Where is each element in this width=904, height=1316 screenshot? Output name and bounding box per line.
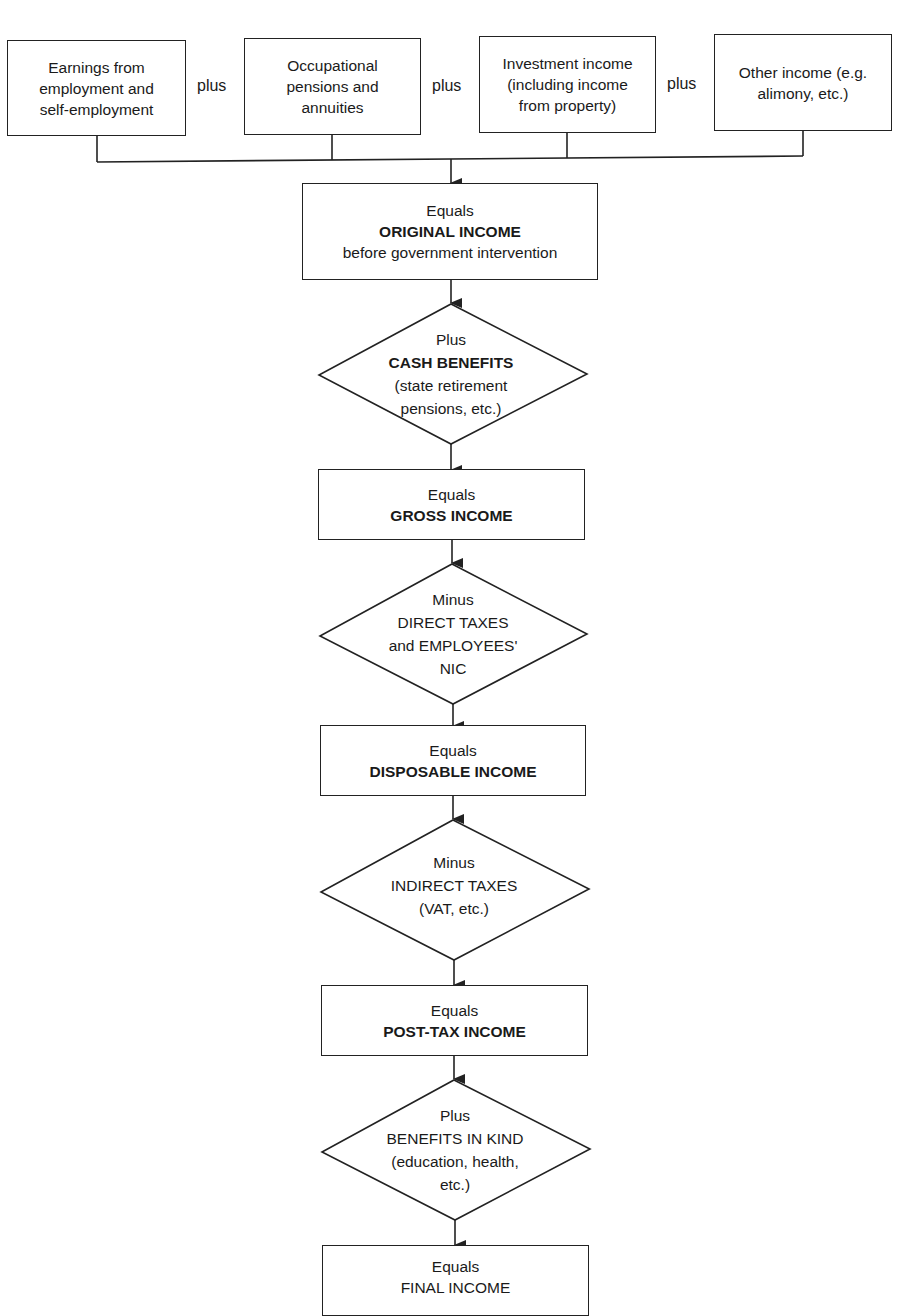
text-line: Equals bbox=[429, 740, 476, 761]
text-line: INDIRECT TAXES bbox=[391, 874, 518, 897]
text-line: DISPOSABLE INCOME bbox=[369, 761, 536, 782]
source-box-pensions: Occupational pensions and annuities bbox=[244, 38, 421, 135]
text-line: POST-TAX INCOME bbox=[383, 1021, 526, 1042]
text-line: etc.) bbox=[440, 1173, 470, 1196]
text-line: Equals bbox=[432, 1256, 479, 1277]
text-line: (VAT, etc.) bbox=[419, 897, 489, 920]
text-line: and EMPLOYEES' bbox=[389, 634, 518, 657]
text-line: employment and bbox=[39, 78, 154, 99]
text-line: Equals bbox=[431, 1000, 478, 1021]
text-line: pensions, etc.) bbox=[401, 397, 502, 420]
text-line: self-employment bbox=[40, 99, 154, 120]
text-line: Occupational bbox=[287, 55, 377, 76]
source-box-earnings: Earnings from employment and self-employ… bbox=[7, 40, 186, 136]
label-indirect-taxes: Minus INDIRECT TAXES (VAT, etc.) bbox=[354, 835, 554, 935]
text-line: Other income (e.g. bbox=[739, 62, 867, 83]
label-benefits-in-kind: Plus BENEFITS IN KIND (education, health… bbox=[355, 1090, 555, 1210]
text-line: CASH BENEFITS bbox=[389, 351, 514, 374]
plus-label-1: plus bbox=[197, 77, 226, 95]
text-line: DIRECT TAXES bbox=[397, 611, 508, 634]
source-box-other: Other income (e.g. alimony, etc.) bbox=[714, 34, 892, 131]
text-line: Equals bbox=[428, 484, 475, 505]
text-line: annuities bbox=[301, 97, 363, 118]
text-line: Earnings from bbox=[48, 57, 144, 78]
text-line: Minus bbox=[432, 588, 473, 611]
text-line: ORIGINAL INCOME bbox=[379, 221, 521, 242]
text-line: Minus bbox=[433, 851, 474, 874]
plus-label-2: plus bbox=[432, 77, 461, 95]
text-line: (state retirement bbox=[395, 374, 508, 397]
text-line: Plus bbox=[440, 1104, 470, 1127]
source-box-investment: Investment income (including income from… bbox=[479, 36, 656, 133]
box-post-tax-income: Equals POST-TAX INCOME bbox=[321, 985, 588, 1056]
label-direct-taxes: Minus DIRECT TAXES and EMPLOYEES' NIC bbox=[353, 574, 553, 694]
text-line: alimony, etc.) bbox=[757, 83, 848, 104]
plus-label-3: plus bbox=[667, 75, 696, 93]
text-line: (including income bbox=[507, 74, 628, 95]
text-line: Investment income bbox=[502, 53, 632, 74]
text-line: Equals bbox=[426, 200, 473, 221]
text-line: pensions and bbox=[286, 76, 378, 97]
box-final-income: Equals FINAL INCOME bbox=[322, 1245, 589, 1316]
text-line: BENEFITS IN KIND bbox=[387, 1127, 524, 1150]
box-gross-income: Equals GROSS INCOME bbox=[318, 469, 585, 540]
box-original-income: Equals ORIGINAL INCOME before government… bbox=[302, 183, 598, 280]
text-line: Plus bbox=[436, 328, 466, 351]
text-line: before government intervention bbox=[343, 242, 558, 263]
text-line: GROSS INCOME bbox=[390, 505, 512, 526]
label-cash-benefits: Plus CASH BENEFITS (state retirement pen… bbox=[351, 314, 551, 434]
text-line: NIC bbox=[440, 657, 467, 680]
box-disposable-income: Equals DISPOSABLE INCOME bbox=[320, 725, 586, 796]
text-line: FINAL INCOME bbox=[401, 1277, 511, 1298]
text-line: (education, health, bbox=[391, 1150, 519, 1173]
text-line: from property) bbox=[519, 95, 616, 116]
